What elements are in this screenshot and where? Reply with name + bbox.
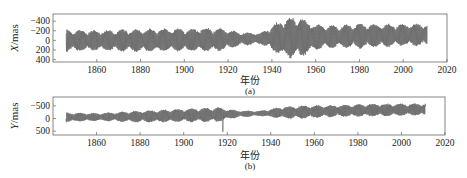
panel-a-ylabel: X/mas xyxy=(8,24,20,53)
x-tick-label: 1920 xyxy=(218,138,237,148)
panel-b-xlabel: 年份 xyxy=(240,149,260,161)
y-tick-label: −200 xyxy=(30,26,50,36)
panel-a-xlabel: 年份 xyxy=(240,74,260,86)
panel-b-y-ticks: 5000−500 xyxy=(30,101,56,136)
x-tick-label: 2000 xyxy=(392,138,411,148)
panel-b-x-ticks: 186018801900192019401960198020002020 xyxy=(87,132,455,148)
panel-a: 4002000−200−400 186018801900192019401960… xyxy=(8,14,457,96)
x-tick-label: 1900 xyxy=(174,138,193,148)
y-tick-label: 0 xyxy=(45,36,50,46)
panel-b-series-y xyxy=(66,104,425,132)
x-tick-label: 1960 xyxy=(306,65,325,75)
panel-a-caption: (a) xyxy=(245,86,255,96)
polar-motion-figure: 4002000−200−400 186018801900192019401960… xyxy=(0,0,467,178)
x-tick-label: 1860 xyxy=(87,65,106,75)
panel-b-ylabel: Y/mas xyxy=(8,103,20,130)
x-tick-label: 1980 xyxy=(350,65,369,75)
x-tick-label: 1960 xyxy=(305,138,324,148)
x-tick-label: 1920 xyxy=(219,65,238,75)
x-tick-label: 2020 xyxy=(438,65,457,75)
x-tick-label: 1880 xyxy=(131,65,150,75)
x-tick-label: 1880 xyxy=(131,138,150,148)
panel-b-caption: (b) xyxy=(245,161,256,171)
x-tick-label: 2020 xyxy=(436,138,455,148)
panel-a-x-ticks: 186018801900192019401960198020002020 xyxy=(87,59,456,75)
panel-a-y-ticks: 4002000−200−400 xyxy=(30,16,56,64)
x-tick-label: 1940 xyxy=(262,65,281,75)
y-tick-label: 400 xyxy=(36,55,51,65)
x-tick-label: 1860 xyxy=(87,138,106,148)
panel-a-series-x xyxy=(66,18,427,58)
x-tick-label: 1940 xyxy=(261,138,280,148)
y-tick-label: −500 xyxy=(30,101,50,111)
x-tick-label: 2000 xyxy=(394,65,413,75)
y-tick-label: 0 xyxy=(45,114,50,124)
x-tick-label: 1980 xyxy=(348,138,367,148)
x-tick-label: 1900 xyxy=(175,65,194,75)
y-tick-label: −400 xyxy=(30,16,50,26)
panel-b: 5000−500 1860188019001920194019601980200… xyxy=(8,97,455,171)
y-tick-label: 200 xyxy=(36,45,51,55)
y-tick-label: 500 xyxy=(36,126,51,136)
